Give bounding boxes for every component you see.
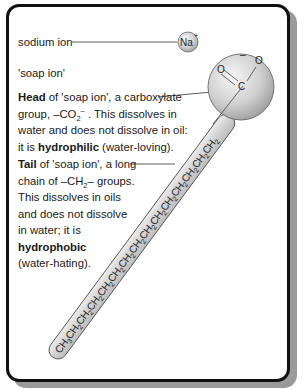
label-soap-ion: 'soap ion': [18, 65, 65, 82]
head-O1: O: [217, 64, 225, 75]
sodium-symbol: Na: [180, 37, 193, 48]
tail-bold: Tail: [18, 158, 37, 170]
tail-description: Tail of 'soap ion', a long chain of –CH2…: [18, 156, 136, 272]
sodium-charge: +: [194, 32, 198, 39]
head-C: C: [238, 81, 245, 92]
head-description: Head of 'soap ion', a carboxylate group,…: [18, 89, 188, 155]
head-charge: –: [240, 49, 246, 60]
head-bold: Head: [18, 91, 46, 103]
head-O2: O: [255, 55, 263, 66]
label-sodium-ion: sodium ion: [18, 34, 73, 51]
